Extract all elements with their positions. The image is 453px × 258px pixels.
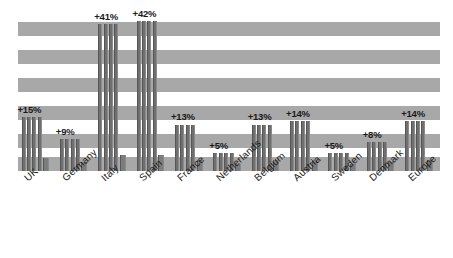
bar-group (60, 10, 94, 171)
data-label: +14% (401, 109, 425, 119)
bar (60, 139, 64, 171)
data-label: +13% (171, 112, 195, 122)
bar (38, 117, 42, 171)
bar (22, 117, 26, 171)
bar-group (98, 10, 132, 171)
bar (27, 117, 31, 171)
bar-group (22, 10, 56, 171)
data-label: +8% (363, 130, 382, 140)
bar-group (290, 10, 324, 171)
bar (109, 24, 113, 171)
bar (114, 24, 118, 171)
bar (153, 21, 157, 171)
bars-layer: +15%+9%+41%+42%+13%+5%+13%+14%+5%+8%+14% (18, 10, 440, 171)
data-label: +5% (209, 141, 228, 151)
data-label: +15% (18, 105, 42, 115)
data-label: +41% (94, 12, 118, 22)
data-label: +13% (248, 112, 272, 122)
bar-group (367, 10, 401, 171)
bar (104, 24, 108, 171)
category-axis: UKGermanyItalySpainFranceNetherlandsBelg… (0, 171, 453, 258)
bar-group (405, 10, 439, 171)
bar (137, 21, 141, 171)
bar (147, 21, 151, 171)
data-label: +5% (324, 141, 343, 151)
bar (295, 121, 299, 171)
data-label: +9% (56, 127, 75, 137)
bar (98, 24, 102, 171)
bar (32, 117, 36, 171)
bar (180, 125, 184, 172)
data-label: +42% (133, 9, 157, 19)
bar (213, 153, 217, 171)
bar (328, 153, 332, 171)
bar-group (137, 10, 171, 171)
bar (367, 142, 371, 171)
bar (411, 121, 415, 171)
bar (120, 155, 126, 171)
bar (405, 121, 409, 171)
bar (43, 158, 49, 171)
bar-group (175, 10, 209, 171)
bar (175, 125, 179, 172)
bar-chart: +15%+9%+41%+42%+13%+5%+13%+14%+5%+8%+14%… (0, 0, 453, 258)
data-label: +14% (286, 109, 310, 119)
bar (142, 21, 146, 171)
bar (290, 121, 294, 171)
